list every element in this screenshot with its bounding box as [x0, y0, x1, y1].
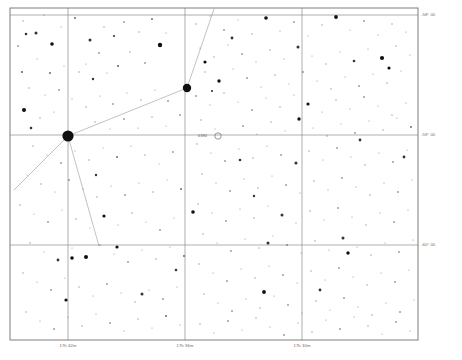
bright-star [62, 130, 73, 141]
star-point [173, 217, 174, 218]
star-point [43, 251, 44, 252]
star-point [217, 79, 220, 82]
star-point [312, 127, 313, 128]
star-point [327, 189, 328, 190]
star-point [78, 71, 79, 72]
star-point [44, 94, 45, 95]
star-point [183, 255, 185, 257]
star-point [165, 315, 167, 317]
star-point [82, 188, 83, 189]
star-point [226, 280, 228, 282]
star-point [57, 259, 60, 262]
star-point [368, 120, 369, 121]
star-point [89, 39, 92, 42]
star-point [243, 178, 244, 179]
star-point [159, 229, 161, 231]
star-point [112, 103, 114, 105]
star-point [32, 145, 33, 146]
star-point [78, 286, 79, 287]
star-point [342, 237, 345, 240]
dec-tick-label: -59° 00 [421, 132, 461, 137]
star-point [349, 29, 350, 30]
star-point [158, 43, 162, 47]
star-point [282, 274, 284, 276]
star-point [328, 249, 329, 250]
star-point [315, 300, 316, 301]
star-point [253, 217, 254, 218]
star-point [251, 109, 253, 111]
star-point [309, 210, 310, 211]
star-point [284, 130, 285, 131]
star-point [252, 157, 253, 158]
star-point [21, 71, 23, 73]
star-point [211, 212, 212, 213]
star-point [197, 203, 198, 204]
star-point [411, 179, 412, 180]
star-point [231, 310, 233, 312]
star-point [19, 204, 20, 205]
star-point [117, 65, 119, 67]
star-point [137, 318, 138, 319]
star-point [397, 191, 399, 193]
star-point [379, 212, 380, 213]
star-point [158, 163, 159, 164]
star-point [179, 114, 181, 116]
star-point [237, 19, 238, 20]
star-point [287, 304, 289, 306]
star-point [350, 156, 351, 157]
star-point [245, 298, 246, 299]
star-point [102, 214, 105, 217]
star-point [405, 102, 406, 103]
star-point [286, 244, 288, 246]
star-point [95, 174, 97, 176]
star-point [324, 279, 325, 280]
star-point [268, 265, 269, 266]
star-point [413, 299, 414, 300]
star-point [223, 29, 225, 31]
star-point [300, 252, 301, 253]
star-point [103, 26, 104, 27]
star-point [109, 128, 110, 129]
dec-tick-label: -58° 00 [421, 12, 461, 17]
star-point [232, 68, 233, 69]
star-point [259, 307, 260, 308]
star-point [138, 31, 139, 32]
star-point [255, 317, 256, 318]
star-point [40, 183, 41, 184]
star-point [138, 182, 139, 183]
star-point [60, 162, 62, 164]
star-point [297, 322, 298, 323]
star-point [85, 63, 86, 64]
star-point [17, 45, 19, 47]
star-point [396, 117, 397, 118]
star-point [334, 15, 338, 19]
star-point [266, 145, 267, 146]
star-point [378, 152, 379, 153]
star-point [394, 281, 396, 283]
star-point [120, 292, 121, 293]
star-point [301, 312, 302, 313]
star-point [279, 30, 280, 31]
star-point [370, 254, 371, 255]
star-point [39, 320, 40, 321]
star-point [311, 55, 312, 56]
star-point [316, 80, 317, 81]
star-point [227, 320, 229, 322]
star-point [81, 325, 82, 326]
star-point [217, 302, 218, 303]
star-point [46, 154, 47, 155]
star-point [22, 108, 26, 112]
star-point [131, 212, 132, 213]
star-point [127, 261, 129, 263]
star-point [386, 82, 387, 83]
star-point [363, 20, 365, 22]
star-point [354, 132, 356, 134]
deep-sky-object-label: 6380 [198, 133, 207, 138]
star-point [395, 45, 396, 46]
star-point [209, 104, 210, 105]
star-chart-root: 17h 42m17h 36m17h 30m-58° 00-59° 00-60° … [0, 0, 462, 360]
star-point [102, 147, 103, 148]
star-point [281, 214, 284, 217]
star-point [179, 324, 180, 325]
star-point [39, 117, 40, 118]
